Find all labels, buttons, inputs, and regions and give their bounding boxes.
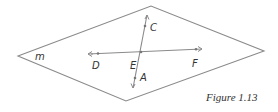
point-f	[195, 48, 198, 51]
point-a	[134, 77, 137, 80]
figure-caption: Figure 1.13	[206, 91, 258, 103]
point-label-e: E	[130, 61, 136, 71]
point-label-a: A	[140, 73, 147, 83]
line-df	[88, 49, 202, 54]
point-label-d: D	[92, 61, 100, 71]
point-d	[97, 52, 100, 55]
point-label-c: C	[150, 23, 157, 33]
point-label-f: F	[192, 59, 198, 69]
point-c	[144, 25, 147, 28]
point-e	[140, 51, 143, 54]
plane-label: m	[35, 52, 45, 62]
plane-m	[18, 6, 264, 101]
